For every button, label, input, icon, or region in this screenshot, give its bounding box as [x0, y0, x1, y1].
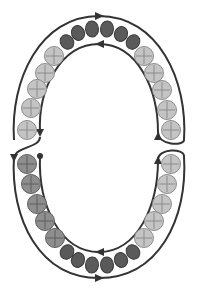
arrow-up-icon: [154, 156, 162, 164]
crossed-bead: [145, 64, 164, 83]
crossed-bead: [135, 47, 154, 66]
arrow-down-icon: [10, 154, 18, 162]
crossed-bead: [28, 80, 47, 99]
crossed-bead: [145, 212, 164, 231]
crossed-bead: [153, 195, 172, 214]
crossed-bead: [46, 229, 65, 248]
dark-bead: [100, 20, 114, 37]
crossed-bead: [22, 99, 41, 118]
junction-dot: [37, 153, 43, 159]
crossed-bead: [158, 175, 177, 194]
crossed-bead: [153, 81, 172, 100]
arrow-down-icon: [36, 129, 44, 137]
dark-bead: [100, 256, 114, 273]
dark-bead: [85, 20, 99, 37]
crossed-bead: [18, 121, 37, 140]
crossed-bead: [158, 101, 177, 120]
crossed-bead: [162, 155, 181, 174]
crossed-bead: [36, 212, 55, 231]
crossed-bead: [135, 229, 154, 248]
arrow-left-icon: [95, 248, 104, 256]
bead-loop-diagram: [0, 0, 198, 292]
arrow-right-icon: [95, 274, 104, 282]
beads-layer: [18, 20, 181, 273]
crossed-bead: [22, 175, 41, 194]
arrow-right-icon: [95, 12, 104, 20]
crossed-bead: [28, 195, 47, 214]
dark-bead: [85, 256, 99, 273]
arrow-left-icon: [95, 40, 104, 48]
crossed-bead: [162, 121, 181, 140]
crossed-bead: [45, 47, 64, 66]
crossed-bead: [18, 155, 37, 174]
arrow-up-icon: [154, 132, 162, 140]
